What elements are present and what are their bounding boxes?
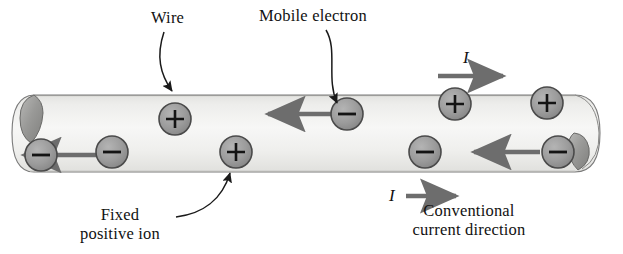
leader-mobile-electron: [326, 30, 337, 103]
label-current-symbol-bottom: I: [389, 186, 395, 206]
leader-fixed-ion: [176, 173, 230, 217]
label-fixed-ion-line2: positive ion: [61, 224, 179, 243]
label-conventional-line2: current direction: [389, 220, 549, 239]
label-current-symbol-top: I: [463, 48, 469, 68]
charge-electron-4: [409, 136, 441, 168]
leader-wire: [160, 32, 172, 91]
label-mobile-electron: Mobile electron: [259, 6, 367, 25]
label-wire: Wire: [151, 8, 184, 27]
charge-electron-5: [542, 136, 574, 168]
charge-electron-1: [25, 139, 57, 171]
charge-electron-3: [331, 98, 363, 130]
charge-electron-2: [96, 136, 128, 168]
charge-ion-1: [159, 103, 191, 135]
charge-ion-2: [220, 136, 252, 168]
charge-ion-3: [439, 88, 471, 120]
label-fixed-ion-line1: Fixed: [61, 205, 179, 224]
label-conventional-line1: Conventional: [389, 201, 549, 220]
charge-ion-4: [531, 87, 563, 119]
